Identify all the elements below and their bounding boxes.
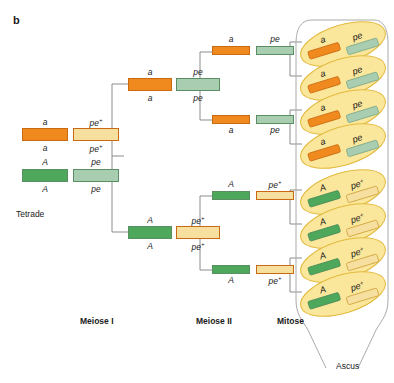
tetrade-label-pe-bottom: pe: [72, 184, 120, 194]
meiose2-m2-2-bar-left: [212, 115, 250, 124]
meiose1-m1-top-right-label-top: pe: [174, 67, 222, 77]
tetrade-chromatid-pe: [73, 169, 119, 182]
meiose1-m1-top-right-label-bottom: pe: [174, 93, 222, 103]
meiose2-m2-2-right-label: pe: [251, 125, 299, 135]
tetrade-label-A-bottom: A: [21, 184, 69, 194]
meiose2-m2-4-left-label: A: [207, 275, 255, 285]
meiose2-m2-3-bar-right: [256, 191, 294, 200]
stage-label-mitose: Mitose: [277, 316, 304, 326]
meiose2-m2-1-right-label: pe: [251, 34, 299, 44]
meiose2-m2-3-bar-left: [212, 191, 250, 200]
tetrade-label: Tetrade: [16, 209, 44, 219]
figure-panel: apeapeapeapeApe+Ape+Ape+Ape+ b Tetrade M…: [0, 0, 394, 383]
tetrade-label-a-top: a: [21, 117, 69, 127]
ascus-label: Ascus: [336, 361, 359, 371]
ascospore-group: apeapeapeapeApe+Ape+Ape+Ape+: [295, 13, 390, 325]
tetrade-label-pe-plus-top: pe+: [72, 117, 120, 128]
stage-label-meiose-1: Meiose I: [80, 316, 114, 326]
tetrade-label-pe-plus-bottom: pe+: [72, 143, 120, 154]
meiose2-m2-1-bar-right: [256, 46, 294, 55]
meiose2-m2-1-left-label: a: [207, 34, 255, 44]
meiose1-m1-bottom-right-label-bottom: pe+: [174, 241, 222, 252]
meiose2-m2-1-bar-left: [212, 46, 250, 55]
meiose1-m1-top-bar-right: [176, 78, 220, 91]
meiose2-m2-4-right-label: pe+: [251, 275, 299, 286]
meiose1-m1-bottom-right-label-top: pe+: [174, 215, 222, 226]
tetrade-chromatid-A: [22, 169, 68, 182]
tetrade-chromatid-a: [22, 128, 68, 141]
meiose1-m1-top-left-label-bottom: a: [126, 93, 174, 103]
meiose1-m1-bottom-left-label-top: A: [126, 215, 174, 225]
meiose2-m2-4-bar-right: [256, 265, 294, 274]
tetrade-label-pe-top: pe: [72, 157, 120, 167]
meiose1-m1-bottom-bar-right: [176, 226, 220, 239]
tetrade-chromatid-pe-plus: [73, 128, 119, 141]
meiose2-m2-2-left-label: a: [207, 125, 255, 135]
tetrade-label-a-bottom: a: [21, 143, 69, 153]
panel-letter: b: [13, 14, 20, 26]
meiose1-m1-top-left-label-top: a: [126, 67, 174, 77]
meiose1-m1-bottom-bar-left: [128, 226, 172, 239]
stage-label-meiose-2: Meiose II: [196, 316, 232, 326]
meiose1-m1-bottom-left-label-bottom: A: [126, 241, 174, 251]
meiose2-m2-2-bar-right: [256, 115, 294, 124]
meiose2-m2-3-right-label: pe+: [251, 179, 299, 190]
tetrade-label-A-top: A: [21, 157, 69, 167]
meiose2-m2-3-left-label: A: [207, 179, 255, 189]
meiose1-m1-top-bar-left: [128, 78, 172, 91]
meiose2-m2-4-bar-left: [212, 265, 250, 274]
